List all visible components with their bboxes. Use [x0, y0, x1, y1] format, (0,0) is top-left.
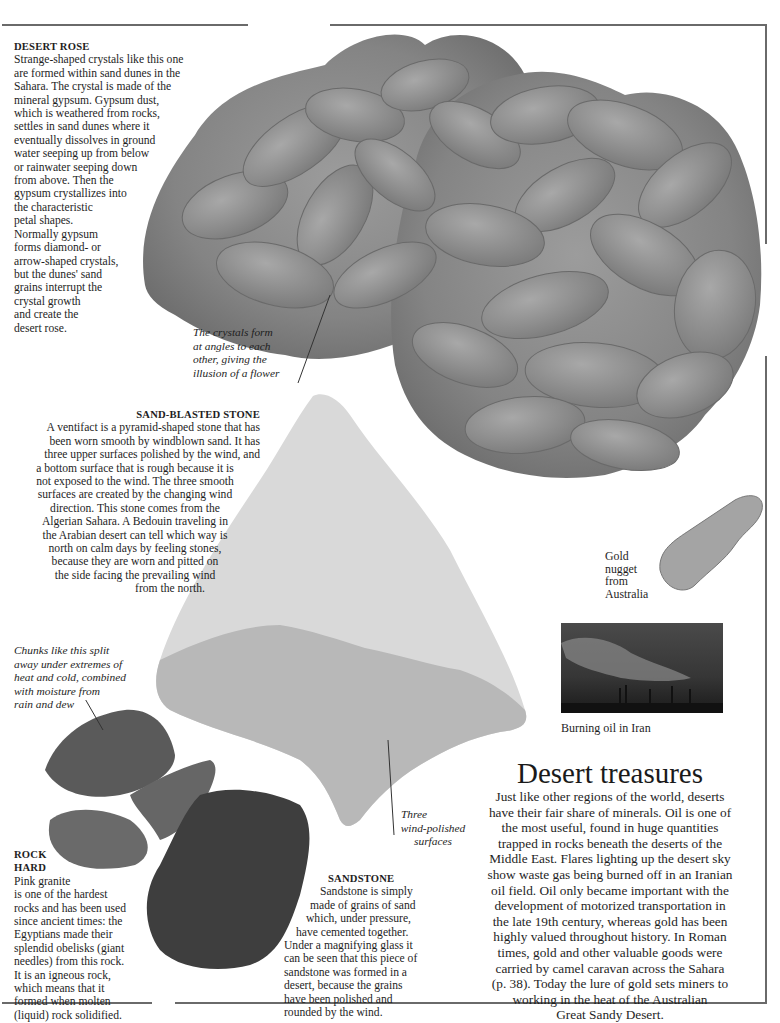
rock-hard-line: splendid obelisks (giant — [14, 942, 164, 955]
desert-rose-line: forms diamond- or — [14, 241, 204, 254]
intro-line: (p. 38). Today the lure of gold sets min… — [470, 976, 750, 992]
desert-rose-line: Normally gypsum — [14, 228, 204, 241]
desert-rose-line: grains interrupt the — [14, 281, 204, 294]
sandstone-heading: SANDSTONE — [290, 872, 440, 885]
burning-oil-photo — [561, 623, 723, 713]
wind-polished-annotation: Three wind-polished surfaces — [393, 808, 473, 849]
sand-blasted-line: surfaces are created by the changing win… — [10, 488, 260, 501]
annotation-line: rain and dew — [14, 698, 174, 712]
desert-rose-caption: DESERT ROSE Strange-shaped crystals like… — [14, 40, 204, 335]
sand-blasted-line: A ventifact is a pyramid-shaped stone th… — [10, 421, 260, 434]
annotation-line: wind-polished — [393, 822, 473, 836]
intro-line: development of motorized transportation … — [470, 898, 750, 914]
desert-rose-line: desert rose. — [14, 322, 204, 335]
desert-rose-line: crystal growth — [14, 295, 204, 308]
desert-rose-line: eventually dissolves in ground — [14, 134, 204, 147]
gold-nugget-caption: Gold nugget from Australia — [605, 550, 665, 600]
annotation-line: Three — [393, 808, 473, 822]
sand-blasted-line: three upper surfaces polished by the win… — [10, 448, 260, 461]
sandstone-line: have cemented together. — [290, 926, 440, 939]
sand-blasted-line: been worn smooth by windblown sand. It h… — [10, 435, 260, 448]
sandstone-line: Under a magnifying glass it — [284, 939, 440, 952]
rock-hard-line: formed when molten — [14, 995, 164, 1008]
desert-rose-line: Strange-shaped crystals like this one — [14, 53, 204, 66]
sandstone-line: sandstone was formed in a — [284, 966, 440, 979]
intro-line: the most useful, found in huge quantitie… — [470, 820, 750, 836]
granite-chunks-annotation: Chunks like this split away under extrem… — [14, 644, 174, 712]
rock-hard-heading-line2: HARD — [14, 861, 164, 874]
intro-line: the late 19th century, whereas gold has … — [470, 914, 750, 930]
desert-rose-line: from above. Then the — [14, 174, 204, 187]
annotation-line: with moisture from — [14, 685, 174, 699]
gold-caption-line: from — [605, 575, 665, 588]
crystals-annotation: The crystals form at angles to each othe… — [193, 326, 333, 380]
annotation-line: illusion of a flower — [193, 367, 333, 381]
annotation-line: other, giving the — [193, 353, 333, 367]
rock-hard-line: Egyptians made their — [14, 928, 164, 941]
desert-rose-heading: DESERT ROSE — [14, 40, 204, 53]
intro-line: times, gold and other valuable goods wer… — [470, 945, 750, 961]
rock-hard-line: since ancient times: the — [14, 915, 164, 928]
sand-blasted-stone-caption: SAND-BLASTED STONE A ventifact is a pyra… — [10, 408, 260, 596]
intro-line: Just like other regions of the world, de… — [470, 789, 750, 805]
desert-rose-line: the characteristic — [14, 201, 204, 214]
desert-rose-line: and create the — [14, 308, 204, 321]
desert-rose-line: or rainwater seeping down — [14, 161, 204, 174]
rock-hard-line: It is an igneous rock, — [14, 969, 164, 982]
intro-line: Middle East. Flares lighting up the dese… — [470, 851, 750, 867]
intro-line: trapped in rocks beneath the deserts of … — [470, 836, 750, 852]
sand-blasted-line: a bottom surface that is rough because i… — [10, 462, 260, 475]
desert-rose-line: water seeping up from below — [14, 147, 204, 160]
sand-blasted-line: direction. This stone comes from the — [10, 502, 260, 515]
intro-line: working in the heat of the Australian — [470, 992, 750, 1008]
desert-rose-line: but the dunes' sand — [14, 268, 204, 281]
annotation-line: Chunks like this split — [14, 644, 174, 658]
frame-right-rule-upper — [765, 24, 767, 244]
gold-caption-line: Gold — [605, 550, 665, 563]
sand-blasted-line: not exposed to the wind. The three smoot… — [10, 475, 260, 488]
frame-right-rule-lower — [765, 356, 767, 1004]
sandstone-line: can be seen that this piece of — [284, 952, 440, 965]
desert-rose-line: Sahara. The crystal is made of the — [14, 80, 204, 93]
sand-blasted-line: from the north. — [10, 582, 260, 595]
sandstone-line: which, under pressure, — [290, 912, 440, 925]
rock-hard-caption: ROCK HARD Pink granite is one of the har… — [14, 848, 164, 1022]
desert-rose-line: petal shapes. — [14, 214, 204, 227]
sandstone-line: rounded by the wind. — [284, 1006, 440, 1019]
rock-hard-line: (liquid) rock solidified. — [14, 1009, 164, 1022]
intro-line: Great Sandy Desert. — [470, 1007, 750, 1023]
desert-rose-line: arrow-shaped crystals, — [14, 255, 204, 268]
annotation-line: away under extremes of — [14, 658, 174, 672]
rock-hard-line: which means that it — [14, 982, 164, 995]
rock-hard-heading-line1: ROCK — [14, 848, 164, 861]
annotation-line: surfaces — [393, 835, 473, 849]
page-title: Desert treasures — [470, 757, 750, 789]
intro-line: have their fair share of minerals. Oil i… — [470, 805, 750, 821]
intro-line: show waste gas being burned off in an Ir… — [470, 867, 750, 883]
sandstone-line: Sandstone is simply — [290, 885, 440, 898]
desert-rose-line: gypsum crystallizes into — [14, 187, 204, 200]
desert-rose-line: settles in sand dunes where it — [14, 120, 204, 133]
rock-hard-line: rocks and has been used — [14, 902, 164, 915]
sand-blasted-line: because they are worn and pitted on — [10, 555, 260, 568]
sandstone-line: desert, because the grains — [284, 979, 440, 992]
rock-hard-line: is one of the hardest — [14, 888, 164, 901]
sand-blasted-line: the side facing the prevailing wind — [10, 569, 260, 582]
intro-line: oil field. Oil only became important wit… — [470, 883, 750, 899]
gold-nugget-image — [650, 490, 770, 600]
gold-caption-line: Australia — [605, 588, 665, 601]
sand-blasted-line: north on calm days by feeling stones, — [10, 542, 260, 555]
desert-rose-line: mineral gypsum. Gypsum dust, — [14, 94, 204, 107]
intro-line: carried by camel caravan across the Saha… — [470, 961, 750, 977]
burning-oil-caption: Burning oil in Iran — [561, 722, 651, 735]
desert-rose-line: are formed within sand dunes in the — [14, 67, 204, 80]
desert-rose-line: which is weathered from rocks, — [14, 107, 204, 120]
sand-blasted-line: Algerian Sahara. A Bedouin traveling in — [10, 515, 260, 528]
sand-blasted-stone-heading: SAND-BLASTED STONE — [10, 408, 260, 421]
rock-hard-line: Pink granite — [14, 875, 164, 888]
sand-blasted-line: the Arabian desert can tell which way is — [10, 529, 260, 542]
annotation-line: heat and cold, combined — [14, 671, 174, 685]
sandstone-line: have been polished and — [284, 993, 440, 1006]
rock-hard-line: needles) from this rock. — [14, 955, 164, 968]
sandstone-caption: SANDSTONE Sandstone is simply made of gr… — [290, 872, 440, 1019]
